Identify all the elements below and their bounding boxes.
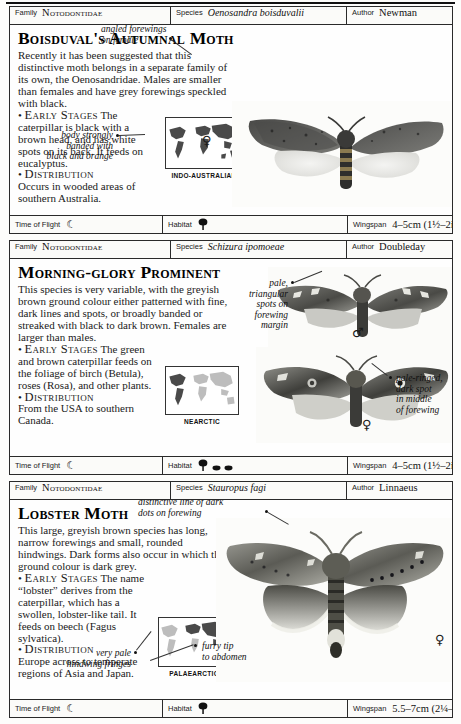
description-paragraph: This species is very variable, with the … xyxy=(18,284,233,344)
author-value: Newman xyxy=(379,7,417,18)
annotation-furry-tip: furry tip to abdomen xyxy=(202,641,247,662)
family-label: Family xyxy=(15,8,37,17)
author-value: Doubleday xyxy=(379,241,425,252)
wingspan-cell: Wingspan 4–5cm (1½–2in) xyxy=(347,457,452,474)
annotation-pale-ringed-spot: pale-ringed, dark spot in middle of fore… xyxy=(396,373,443,415)
annotation-line: to abdomen xyxy=(202,652,247,662)
annotation-dark-dots: distinctive line of dark dots on forewin… xyxy=(138,500,223,518)
habitat-label: Habitat xyxy=(168,461,192,470)
annotation-line: pale, xyxy=(269,278,288,288)
bullet-marker: • xyxy=(18,643,25,655)
time-of-flight-cell: Time of Flight ☾ xyxy=(10,457,162,474)
wingspan-cell: Wingspan 5.5–7cm (2¼–2¾ in) xyxy=(347,700,452,717)
species-cell: Species Schizura ipomoeae xyxy=(170,241,346,258)
entry-foot-bar: Time of Flight ☾ Habitat Wingspan 4–5cm … xyxy=(10,456,452,474)
time-of-flight-label: Time of Flight xyxy=(15,704,60,713)
leader-dot xyxy=(389,376,392,379)
wingspan-value: 4–5cm (1½–2in) xyxy=(392,460,452,471)
entry-meta-bar: Family Notodontidae Species Schizura ipo… xyxy=(10,241,452,259)
moon-icon: ☾ xyxy=(66,218,76,231)
annotation-line: dots on forewing xyxy=(138,508,202,518)
habitat-cell: Habitat xyxy=(162,457,347,474)
distribution-paragraph: • Distribution From the USA to southern … xyxy=(18,392,156,428)
annotation-line: in middle xyxy=(396,394,432,404)
early-stages-heading: Early Stages xyxy=(25,342,98,356)
family-label: Family xyxy=(15,242,37,251)
distribution-paragraph: • Distribution Occurs in wooded areas of… xyxy=(18,169,156,205)
entry-body: Morning-glory Prominent This species is … xyxy=(10,259,452,458)
family-cell: Family Notodontidae xyxy=(10,7,170,24)
species-entry-lobster-moth: Family Notodontidae Species Stauropus fa… xyxy=(9,481,453,718)
species-value: Schizura ipomoeae xyxy=(208,241,284,252)
habitat-cell: Habitat xyxy=(162,216,347,233)
annotation-line: banded with xyxy=(66,141,113,151)
annotation-line: dark spot xyxy=(396,384,432,394)
author-cell: Author Newman xyxy=(346,7,452,24)
species-entry-boisduvals-autumnal-moth: Family Notodontidae Species Oenosandra b… xyxy=(9,6,453,234)
annotation-line: hindwing fringes xyxy=(67,659,131,669)
distribution-text: From the USA to southern Canada. xyxy=(18,402,134,426)
male-symbol: ♂ xyxy=(352,325,364,340)
family-value: Notodontidae xyxy=(42,482,102,493)
habitat-label: Habitat xyxy=(168,704,192,713)
moon-icon: ☾ xyxy=(66,459,76,472)
species-cell: Species Stauropus fagi xyxy=(170,482,346,499)
annotation-line: body strongly xyxy=(61,130,113,140)
early-stages-paragraph: • Early Stages The name “lobster” derive… xyxy=(18,573,156,644)
annotation-line: distinctive line of dark xyxy=(138,500,223,507)
shrub-icon xyxy=(224,457,233,474)
annotation-line: furry tip xyxy=(202,641,233,651)
annotation-pale-fringes: very pale hindwing fringes xyxy=(46,648,131,669)
species-value: Stauropus fagi xyxy=(208,482,266,493)
moth-image xyxy=(232,101,452,207)
family-cell: Family Notodontidae xyxy=(10,482,170,499)
leader-dot xyxy=(194,644,197,647)
time-of-flight-cell: Time of Flight ☾ xyxy=(10,216,162,233)
annotation-line: spots on xyxy=(257,299,288,309)
bullet-marker: • xyxy=(18,391,25,403)
time-of-flight-cell: Time of Flight ☾ xyxy=(10,700,162,717)
tree-icon xyxy=(198,457,208,474)
entry-body: Boisduval's Autumnal Moth Recently it ha… xyxy=(10,25,452,217)
author-value: Linnaeus xyxy=(379,482,418,493)
early-stages-heading: Early Stages xyxy=(25,571,98,585)
author-label: Author xyxy=(352,242,374,251)
author-label: Author xyxy=(352,8,374,17)
moon-icon: ☾ xyxy=(66,702,76,715)
family-value: Notodontidae xyxy=(42,7,102,18)
specimen-photo-female xyxy=(232,101,452,207)
entry-meta-bar: Family Notodontidae Species Oenosandra b… xyxy=(10,7,452,25)
habitat-cell: Habitat xyxy=(162,700,347,717)
annotation-line: of forewing xyxy=(396,405,439,415)
map-caption: NEARCTIC xyxy=(162,418,242,425)
wingspan-value: 5.5–7cm (2¼–2¾ in) xyxy=(392,703,452,714)
annotation-line: pale-ringed, xyxy=(396,373,443,383)
early-stages-heading: Early Stages xyxy=(25,108,98,122)
tree-icon xyxy=(198,700,208,717)
wingspan-label: Wingspan xyxy=(353,704,386,713)
female-symbol: ♀ xyxy=(202,133,212,148)
early-stages-paragraph: • Early Stages The green and brown cater… xyxy=(18,344,156,392)
tree-icon xyxy=(198,216,208,233)
bullet-marker: • xyxy=(18,572,25,584)
family-value: Notodontidae xyxy=(42,241,102,252)
species-entry-morning-glory-prominent: Family Notodontidae Species Schizura ipo… xyxy=(9,240,453,475)
entry-meta-bar: Family Notodontidae Species Stauropus fa… xyxy=(10,482,452,500)
description-paragraph: Recently it has been suggested that this… xyxy=(18,50,233,110)
specimen-photo-female xyxy=(216,518,452,682)
species-cell: Species Oenosandra boisduvalii xyxy=(170,7,346,24)
annotation-line: triangular xyxy=(249,289,288,299)
annotation-line: forewing xyxy=(255,310,288,320)
habitat-label: Habitat xyxy=(168,220,192,229)
entry-body: Lobster Moth This large, greyish brown s… xyxy=(10,500,452,701)
female-symbol: ♀ xyxy=(435,632,445,647)
distribution-text: Occurs in wooded areas of southern Austr… xyxy=(18,180,135,204)
species-label: Species xyxy=(176,242,203,251)
wingspan-label: Wingspan xyxy=(353,461,386,470)
wingspan-cell: Wingspan 4–5cm (1½–2in) xyxy=(347,216,452,233)
species-value: Oenosandra boisduvalii xyxy=(208,7,304,18)
species-label: Species xyxy=(176,483,203,492)
author-cell: Author Linnaeus xyxy=(346,482,452,499)
leader-dot xyxy=(134,651,137,654)
annotation-body-banded: body strongly banded with black and oran… xyxy=(20,130,113,162)
